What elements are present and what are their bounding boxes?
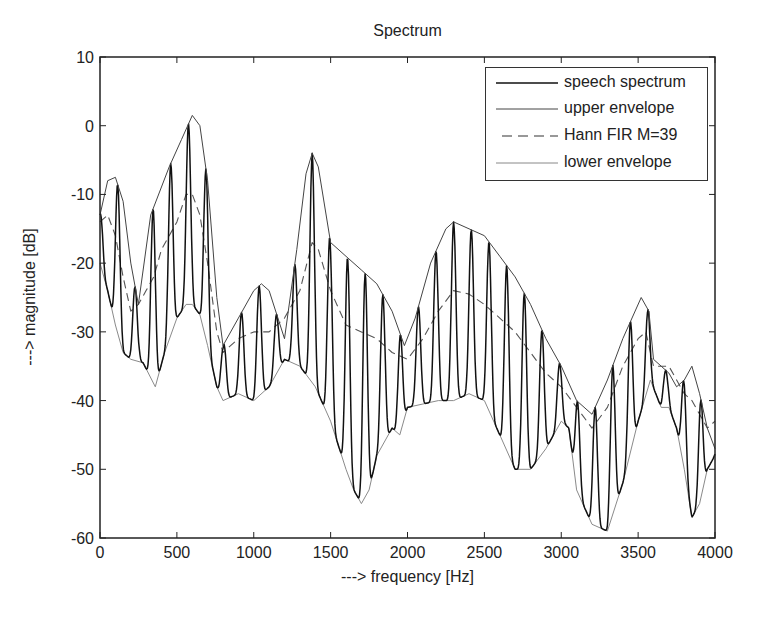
legend-item-hann-fir: Hann FIR M=39 [486,125,707,147]
y-tick-label: -60 [71,530,94,547]
hann-fir-line [100,194,715,428]
x-tick-label: 3500 [620,544,656,561]
y-tick-label: -20 [71,255,94,272]
legend-item-lower-envelope: lower envelope [486,152,707,174]
legend-label: speech spectrum [564,73,686,91]
x-tick-label: 4000 [697,544,733,561]
legend: speech spectrum upper envelope Hann FIR … [485,67,708,181]
legend-label: Hann FIR M=39 [564,126,677,144]
legend-label: upper envelope [564,99,674,117]
legend-label: lower envelope [564,153,672,171]
dashed-line-icon [496,130,558,142]
y-tick-label: 10 [76,49,94,66]
figure: Spectrum 0500100015002000250030003500400… [0,0,771,621]
legend-item-speech-spectrum: speech spectrum [486,72,707,94]
legend-item-upper-envelope: upper envelope [486,98,707,120]
solid-line-icon [496,157,558,169]
x-tick-label: 2000 [390,544,426,561]
y-tick-label: 0 [85,118,94,135]
x-axis-label: ---> frequency [Hz] [100,568,715,586]
lower-envelope-line [100,263,715,531]
solid-line-icon [496,103,558,115]
x-tick-label: 500 [164,544,191,561]
x-tick-label: 2500 [467,544,503,561]
x-tick-label: 3000 [543,544,579,561]
y-tick-label: -40 [71,393,94,410]
x-tick-label: 0 [96,544,105,561]
x-tick-label: 1000 [236,544,272,561]
y-tick-label: -10 [71,186,94,203]
solid-line-icon [496,77,558,89]
x-tick-label: 1500 [313,544,349,561]
speech-spectrum-line [100,124,715,530]
y-axis-label: ---> magnitude [dB] [21,228,39,365]
y-tick-label: -30 [71,324,94,341]
y-tick-label: -50 [71,461,94,478]
